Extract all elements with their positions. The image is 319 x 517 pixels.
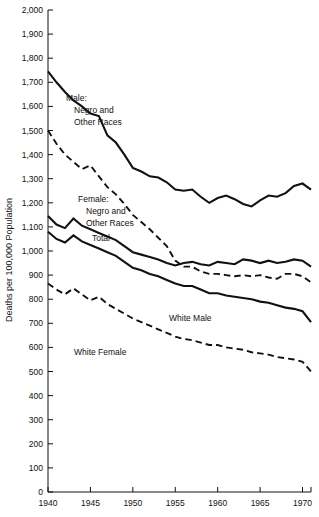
series-label-1: Other Races [86,218,134,228]
series-label-3: White Male [169,313,212,323]
y-tick-label: 600 [29,342,43,352]
series-label-4: White Female [74,347,127,357]
y-tick-label: 200 [29,439,43,449]
y-tick-label: 500 [29,367,43,377]
y-tick-label: 700 [29,318,43,328]
y-tick-label: 1,100 [22,222,44,232]
series-label-1: Female: [78,194,109,204]
x-tick-label: 1940 [39,498,58,508]
x-axis-ticks: 1940194519501955196019651970 [39,487,313,508]
y-tick-label: 1,400 [22,150,44,160]
y-tick-label: 1,600 [22,101,44,111]
x-tick-label: 1960 [208,498,227,508]
y-tick-label: 1,900 [22,29,44,39]
x-tick-label: 1965 [251,498,270,508]
y-tick-label: 800 [29,294,43,304]
y-tick-label: 300 [29,415,43,425]
chart-canvas: 01002003004005006007008009001,0001,1001,… [0,0,319,517]
y-tick-label: 2,000 [22,5,44,15]
series-label-0: Negro and [74,105,114,115]
x-tick-label: 1945 [81,498,100,508]
series-label-0: Other Races [74,117,122,127]
y-tick-label: 1,200 [22,198,44,208]
x-tick-label: 1955 [166,498,185,508]
y-tick-label: 1,000 [22,246,44,256]
y-axis-title: Deaths per 100,000 Population [4,198,14,322]
series-label-2: Total [92,233,110,243]
y-tick-label: 1,500 [22,126,44,136]
series-label-1: Negro and [86,206,126,216]
x-tick-label: 1970 [293,498,312,508]
series-line-4 [48,284,311,372]
y-tick-label: 400 [29,391,43,401]
y-tick-label: 0 [38,487,43,497]
series-label-0: Male: [66,93,87,103]
mortality-line-chart: 01002003004005006007008009001,0001,1001,… [0,0,319,517]
y-tick-label: 100 [29,463,43,473]
series-line-0 [48,71,311,206]
series-label-group: Male:Negro andOther RacesFemale:Negro an… [66,93,212,357]
series-line-3 [48,232,311,322]
x-tick-label: 1950 [123,498,142,508]
y-tick-label: 900 [29,270,43,280]
y-tick-label: 1,700 [22,77,44,87]
y-tick-label: 1,800 [22,53,44,63]
y-tick-label: 1,300 [22,174,44,184]
